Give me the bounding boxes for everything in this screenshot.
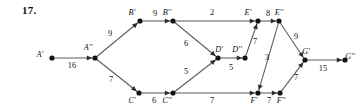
node-label: B'': [163, 8, 172, 17]
graph-node-Bpp: [170, 18, 175, 23]
edge-arrowhead: [250, 91, 255, 96]
graph-edge: [280, 23, 303, 58]
graph-node-Dp: [215, 55, 220, 60]
edge-arrowhead: [165, 91, 170, 96]
edge-arrowhead: [165, 19, 170, 24]
edge-arrowhead: [237, 56, 242, 61]
edge-weight-label: 2: [210, 8, 214, 17]
edge-weight-label: 8: [266, 9, 270, 18]
edge-weight-label: 7: [109, 75, 113, 84]
node-label: A': [36, 50, 44, 59]
edge-arrowhead: [87, 56, 92, 61]
graph-node-Ep: [255, 18, 260, 23]
edge-weight-label: 7: [210, 96, 214, 105]
network-diagram-figure: 17. A'A''B'B''C'C''D'D''E'E''F'F''G'G'' …: [0, 0, 363, 109]
edge-arrowhead: [250, 19, 255, 24]
edge-weight-label: 9: [108, 29, 112, 38]
graph-node-Gp: [302, 57, 307, 62]
arrowheads-layer: [87, 19, 342, 96]
graph-edge: [175, 23, 216, 57]
edge-weight-label: 9: [294, 32, 298, 41]
edge-arrowhead: [253, 24, 258, 30]
graph-edge: [97, 59, 137, 91]
graph-node-Cp: [136, 90, 141, 95]
graph-edge: [97, 23, 138, 57]
node-label: C'': [163, 96, 172, 105]
graph-node-Cpp: [170, 90, 175, 95]
graph-edge: [175, 59, 216, 91]
graph-node-Fpp: [277, 90, 282, 95]
node-label: D'': [231, 45, 242, 54]
graph-node-Bp: [137, 18, 142, 23]
graph-node-Ap: [49, 55, 54, 60]
edge-weight-label: 15: [319, 64, 327, 73]
node-label: D': [214, 45, 223, 54]
edge-weight-labels-layer: 1697926657578397715: [68, 8, 327, 105]
edge-weight-label: 7: [294, 73, 298, 82]
edge-arrowhead: [271, 19, 276, 24]
edge-weight-label: 5: [184, 67, 188, 76]
node-label: A'': [83, 43, 93, 52]
edge-weight-label: 9: [153, 9, 157, 18]
node-labels-layer: A'A''B'B''C'C''D'D''E'E''F'F''G'G'': [36, 8, 355, 105]
graph-node-App: [92, 55, 97, 60]
node-label: G': [302, 47, 310, 56]
node-label: G'': [345, 52, 355, 61]
node-label: B': [129, 8, 136, 17]
edge-weight-label: 7: [253, 37, 257, 46]
edge-weight-label: 3: [265, 53, 269, 62]
node-label: C': [128, 96, 135, 105]
edge-weight-label: 6: [152, 96, 156, 105]
node-label: E': [244, 8, 252, 17]
edges-layer: [54, 21, 342, 93]
edge-weight-label: 6: [184, 39, 188, 48]
graph-node-Dpp: [242, 55, 247, 60]
edge-arrowhead: [272, 91, 277, 96]
edge-weight-label: 5: [229, 63, 233, 72]
edge-arrowhead: [337, 58, 342, 63]
graph-node-Epp: [276, 18, 281, 23]
edge-weight-label: 7: [267, 96, 271, 105]
edge-weight-label: 16: [68, 61, 76, 70]
graph-node-Fp: [255, 90, 260, 95]
directed-graph: A'A''B'B''C'C''D'D''E'E''F'F''G'G'' 1697…: [0, 0, 363, 109]
edge-arrowhead: [298, 62, 303, 68]
node-label: F'': [276, 96, 286, 105]
node-label: F': [250, 96, 258, 105]
node-label: E'': [274, 8, 284, 17]
